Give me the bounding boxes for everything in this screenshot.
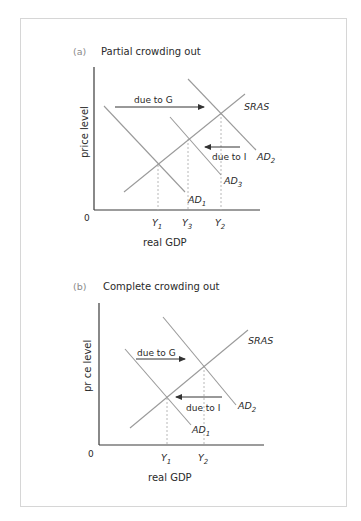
- panel-a-due-to-i-label: due to I: [212, 152, 246, 162]
- panel-b-sras-label: SRAS: [248, 335, 273, 346]
- panel-a-tag: (a): [73, 46, 86, 57]
- panel-a-y-axis-label: price level: [79, 106, 90, 158]
- panel-a-ad2-curve: [188, 79, 256, 150]
- panel-b-due-to-g-label: due to G: [137, 348, 176, 358]
- panel-a-ad3-curve: [170, 117, 221, 175]
- panel-a-tick-y2: Y2: [215, 217, 226, 231]
- panel-a-sras-label: SRAS: [244, 101, 269, 112]
- panel-b-tick-y2: Y2: [198, 452, 209, 466]
- panel-a-tick-y1: Y1: [152, 217, 162, 231]
- panel-b-sras-curve: [130, 330, 248, 428]
- panel-a-title: Partial crowding out: [101, 46, 201, 57]
- panel-a-ad1-curve: [104, 106, 185, 192]
- panel-b-y-axis-label: pr ce level: [82, 340, 93, 392]
- panel-a-x-axis-label: real GDP: [143, 237, 187, 248]
- panel-b-ad1-label: AD1: [191, 424, 210, 438]
- panel-b-origin: 0: [88, 449, 94, 459]
- panel-a-ad3-label: AD3: [223, 175, 242, 189]
- panel-a: (a) Partial crowding out price level 0 r…: [73, 46, 276, 248]
- panel-b-tag: (b): [73, 281, 86, 292]
- panel-b-title: Complete crowding out: [103, 281, 220, 292]
- panel-b-x-axis-label: real GDP: [148, 472, 192, 483]
- panel-b: (b) Complete crowding out pr ce level 0 …: [73, 281, 273, 483]
- panel-a-tick-y3: Y3: [182, 217, 192, 231]
- panel-b-tick-y1: Y1: [161, 452, 171, 466]
- panel-b-ad2-label: AD2: [237, 400, 257, 414]
- panel-b-due-to-i-label: due to I: [186, 403, 220, 413]
- crowding-out-diagram: (a) Partial crowding out price level 0 r…: [0, 0, 361, 521]
- panel-b-ad1-curve: [125, 349, 191, 425]
- panel-a-ad2-label: AD2: [256, 151, 276, 165]
- panel-a-origin: 0: [84, 213, 90, 223]
- panel-a-due-to-g-label: due to G: [134, 95, 173, 105]
- panel-a-ad1-label: AD1: [187, 194, 206, 208]
